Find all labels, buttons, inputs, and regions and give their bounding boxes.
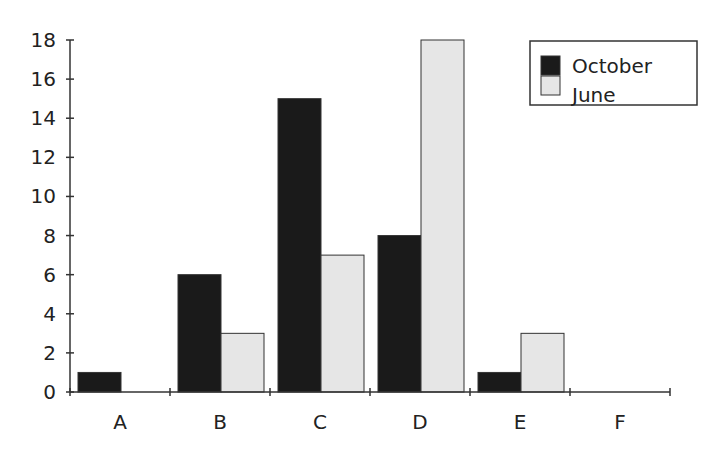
x-tick-label: F [614, 410, 626, 434]
bar-june-b [221, 333, 264, 392]
x-tick-label: C [313, 410, 327, 434]
x-tick-label: E [514, 410, 527, 434]
y-tick-label: 0 [43, 380, 56, 404]
y-tick-label: 8 [43, 224, 56, 248]
y-tick-label: 6 [43, 263, 56, 287]
y-tick-label: 12 [31, 145, 56, 169]
y-tick-label: 4 [43, 302, 56, 326]
legend-label-june: June [570, 83, 616, 107]
y-tick-label: 14 [31, 106, 56, 130]
bars-group [78, 40, 564, 392]
y-tick-label: 10 [31, 184, 56, 208]
bar-october-d [378, 236, 421, 392]
y-tick-label: 2 [43, 341, 56, 365]
y-tick-label: 16 [31, 67, 56, 91]
bar-june-c [321, 255, 364, 392]
legend: October June [530, 41, 697, 107]
bar-october-c [278, 99, 321, 392]
y-tick-label: 18 [31, 28, 56, 52]
legend-label-october: October [572, 54, 653, 78]
x-tick-label: D [412, 410, 427, 434]
x-tick-label: A [113, 410, 127, 434]
legend-swatch-june [541, 76, 560, 95]
bar-october-e [478, 372, 521, 392]
bar-june-e [521, 333, 564, 392]
bar-june-d [421, 40, 464, 392]
legend-swatch-october [541, 56, 560, 75]
bar-october-b [178, 275, 221, 392]
bar-chart: 024681012141618ABCDEF October June [0, 0, 706, 458]
x-tick-label: B [213, 410, 227, 434]
bar-october-a [78, 372, 121, 392]
